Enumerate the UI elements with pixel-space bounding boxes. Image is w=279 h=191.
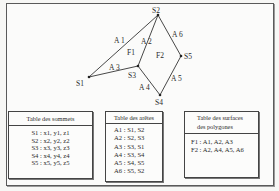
vertex-s5 (180, 55, 183, 58)
vertex-table-row: S4 : x4, y4, z4 (9, 152, 92, 160)
vertex-s4 (159, 94, 162, 97)
edge-table-row: A5 : S4, S5 (114, 159, 162, 167)
vertex-table-row: S1 : x1, y1, z1 (9, 129, 92, 137)
vertex-label-s5: S5 (184, 52, 192, 61)
title-line-1: Table des surfaces (197, 114, 255, 123)
vertex-table-row: S5 : x5, y5, z5 (9, 159, 92, 167)
vertex-label-s2: S2 (152, 6, 160, 15)
vertex-label-s3: S3 (128, 71, 136, 80)
labels: A 1A 2A 3A 4A 5A 6S1S2S3S4S5F1F2 (76, 6, 192, 107)
vertex-label-s4: S4 (155, 98, 163, 107)
edge-table-row: A1 : S1, S2 (114, 126, 162, 134)
vertex-s1 (88, 76, 91, 79)
edge-label-a1: A 1 (114, 36, 125, 45)
vertex-label-s1: S1 (76, 79, 84, 88)
polygon-surface-table-title: Table des surfaces des polygones (185, 112, 258, 134)
edge-label-a2: A 2 (141, 37, 152, 46)
edge-label-a3: A 3 (109, 63, 120, 72)
surface-table-row: F1 : A1, A2, A3 (191, 138, 258, 146)
vertex-s3 (137, 65, 140, 68)
edge-label-a4: A 4 (139, 83, 150, 92)
edge-table-row: A4 : S3, S4 (114, 151, 162, 159)
face-label-f1: F1 (127, 48, 135, 57)
title-line-2: des polygones (197, 123, 255, 132)
vertex-table-title: Table des sommets (9, 112, 92, 126)
polygon-surface-table: Table des surfaces des polygones F1 : A1… (184, 111, 259, 178)
vertex-table-row: S2 : x2, y2, z2 (9, 137, 92, 145)
edge-label-a6: A 6 (172, 30, 183, 39)
edge-table-row: A6 : S5, S2 (114, 167, 162, 175)
face-label-f2: F2 (156, 51, 164, 60)
surface-table-row: F2 : A2, A4, A5, A6 (191, 146, 258, 154)
vertex-table: Table des sommets S1 : x1, y1, z1 S2 : x… (8, 111, 93, 179)
edge-table: Table des arêtes A1 : S1, S2 A2 : S2, S3… (105, 111, 163, 182)
edge-a1 (89, 15, 158, 77)
edge-table-row: A3 : S3, S1 (114, 143, 162, 151)
vertices (88, 14, 183, 97)
edge-label-a5: A 5 (171, 74, 182, 83)
edge-table-title: Table des arêtes (106, 112, 162, 124)
vertex-table-row: S3 : x3, y3, z3 (9, 144, 92, 152)
edges (89, 15, 181, 95)
edge-table-row: A2 : S2, S3 (114, 134, 162, 142)
